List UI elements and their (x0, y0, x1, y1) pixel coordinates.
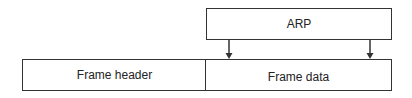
arrow-left-icon (226, 40, 233, 59)
arrow-right-icon (367, 40, 374, 59)
arrows-layer (0, 0, 412, 98)
